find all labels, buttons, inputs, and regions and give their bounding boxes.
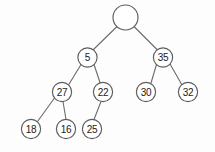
binary-tree-diagram: 53527223032181625	[0, 0, 215, 152]
tree-node-n35[interactable]: 35	[153, 48, 172, 67]
tree-node-n32[interactable]: 32	[178, 82, 197, 101]
tree-node-n25[interactable]: 25	[82, 119, 101, 138]
node-label-n35: 35	[158, 52, 169, 63]
tree-edges-group	[38, 27, 183, 122]
tree-node-root[interactable]	[113, 5, 138, 30]
node-circle-root[interactable]	[113, 5, 138, 30]
tree-edge-n27-n18	[38, 98, 55, 122]
tree-node-n16[interactable]: 16	[56, 119, 75, 138]
node-label-n5: 5	[85, 52, 91, 63]
tree-edge-root-n35	[134, 27, 157, 50]
tree-edge-n27-n16	[63, 102, 66, 120]
node-label-n16: 16	[61, 124, 72, 135]
tree-edge-n5-n22	[94, 65, 100, 83]
tree-node-n18[interactable]: 18	[21, 119, 40, 138]
tree-node-n30[interactable]: 30	[136, 82, 155, 101]
tree-node-n5[interactable]: 5	[78, 48, 97, 67]
tree-edge-n5-n27	[69, 65, 82, 86]
tree-node-n22[interactable]: 22	[93, 82, 112, 101]
node-label-n32: 32	[183, 87, 194, 98]
tree-edge-n22-n25	[94, 102, 101, 120]
node-label-n30: 30	[141, 87, 152, 98]
node-label-n27: 27	[57, 87, 68, 98]
node-label-n18: 18	[26, 124, 37, 135]
tree-edge-root-n5	[94, 27, 118, 50]
tree-node-n27[interactable]: 27	[52, 82, 71, 101]
node-label-n22: 22	[98, 87, 109, 98]
tree-edge-n35-n32	[170, 64, 182, 85]
tree-canvas: 53527223032181625	[0, 0, 215, 152]
tree-edge-n35-n30	[151, 65, 157, 84]
node-label-n25: 25	[87, 124, 98, 135]
tree-nodes-group: 53527223032181625	[21, 5, 197, 139]
